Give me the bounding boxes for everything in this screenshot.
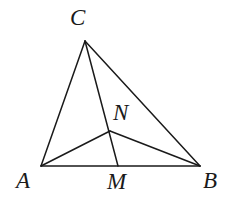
point-label-N: N [113, 101, 128, 124]
point-label-M: M [107, 170, 126, 193]
point-label-A: A [16, 169, 30, 192]
point-label-B: B [203, 169, 217, 192]
point-label-C: C [70, 6, 85, 29]
segment-NB [110, 131, 200, 166]
geometry-figure: C N A M B [0, 0, 237, 215]
